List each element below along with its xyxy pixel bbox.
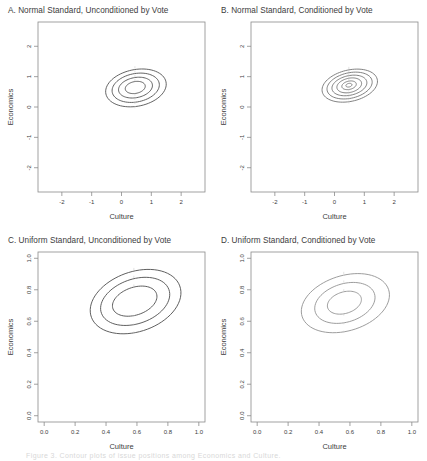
y-tick-label: 0.6 [239,316,245,325]
y-tick-label: -2 [26,164,32,170]
panel-a-plot: -2-1012210-1-2CultureEconomics [0,0,213,230]
x-tick-label: -2 [59,199,65,205]
figure-caption: Figure 3. Contour plots of issue positio… [0,450,427,461]
x-tick-label: 0.8 [164,429,173,435]
y-tick-label: 0.8 [239,285,245,294]
contour-line [117,75,154,101]
panel-a: A. Normal Standard, Unconditioned by Vot… [0,0,213,230]
contour-line [341,80,357,91]
contour-line [124,80,146,95]
x-tick-label: 1.0 [195,429,204,435]
panel-d: D. Uniform Standard, Conditioned by Vote… [213,230,426,460]
y-axis-label: Economics [219,318,228,355]
y-tick-label: 0 [26,105,32,109]
panel-b-plot: -2-1012210-1-2CultureEconomics [213,0,426,230]
plot-frame [38,252,205,422]
x-tick-label: 0.2 [71,429,80,435]
x-tick-label: 1 [150,199,154,205]
y-tick-label: 0.0 [26,411,32,420]
contour-line [94,269,176,333]
y-axis-label: Economics [219,88,228,125]
x-tick-label: 1 [363,199,367,205]
y-tick-label: 0.2 [26,379,32,388]
x-tick-label: 0.8 [377,429,386,435]
contour-line [325,288,365,318]
contour-line [346,83,353,88]
x-tick-label: 0.0 [40,429,49,435]
x-axis-label: Culture [109,212,133,221]
y-tick-label: 0 [239,105,245,109]
x-tick-label: 0.4 [102,429,111,435]
x-tick-label: 0.2 [284,429,293,435]
x-tick-label: 0 [333,199,337,205]
y-tick-label: 0.8 [26,285,32,294]
y-tick-label: 1 [26,74,32,78]
panel-d-plot: 0.00.20.40.60.81.01.00.80.60.40.20.0Cult… [213,230,426,460]
y-tick-label: 0.2 [239,379,245,388]
panel-c: C. Uniform Standard, Unconditioned by Vo… [0,230,213,460]
y-tick-label: -2 [239,164,245,170]
x-tick-label: -1 [89,199,95,205]
y-tick-label: 1.0 [239,253,245,262]
contour-line [294,264,396,342]
y-axis-label: Economics [6,318,15,355]
plot-frame [38,22,205,192]
y-axis-label: Economics [6,88,15,125]
panel-c-plot: 0.00.20.40.60.81.01.00.80.60.40.20.0Cult… [0,230,213,460]
y-tick-label: -1 [26,134,32,140]
y-tick-label: 0.6 [26,316,32,325]
y-tick-label: -1 [239,134,245,140]
x-tick-label: 0 [120,199,124,205]
y-tick-label: 2 [239,44,245,48]
x-tick-label: -1 [302,199,308,205]
y-tick-label: 0.0 [239,411,245,420]
figure-caption-strip: Figure 3. Contour plots of issue positio… [0,450,427,461]
y-tick-label: 1.0 [26,253,32,262]
contour-line [109,281,161,321]
x-tick-label: 2 [392,199,396,205]
x-tick-label: 0.0 [253,429,262,435]
x-tick-label: 0.6 [346,429,355,435]
y-tick-label: 1 [239,74,245,78]
x-tick-label: 0.6 [133,429,142,435]
y-tick-label: 0.4 [26,348,32,357]
contour-figure: A. Normal Standard, Unconditioned by Vot… [0,0,427,461]
y-tick-label: 2 [26,44,32,48]
x-tick-label: -2 [272,199,278,205]
contour-line [82,259,190,345]
x-tick-label: 0.4 [315,429,324,435]
y-tick-label: 0.4 [239,348,245,357]
x-tick-label: 1.0 [408,429,417,435]
contour-line [324,68,374,102]
contour-line [330,72,369,98]
plot-frame [251,22,418,192]
panel-b: B. Normal Standard, Conditioned by Vote … [213,0,426,230]
x-axis-label: Culture [322,212,346,221]
contour-line [310,276,380,330]
x-tick-label: 2 [179,199,183,205]
